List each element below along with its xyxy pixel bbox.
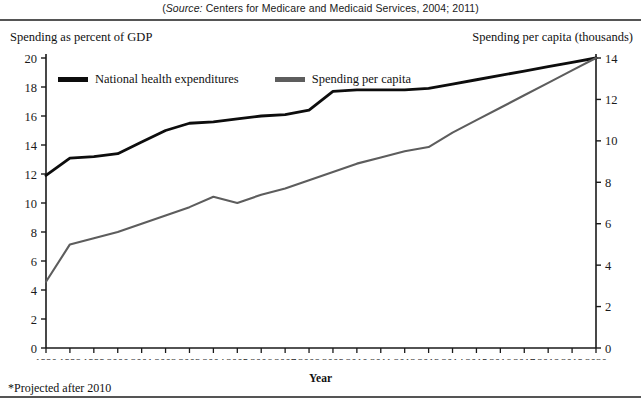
right-axis-title: Spending per capita (thousands) [472, 30, 633, 45]
x-axis-tick-label: 2010 [346, 356, 369, 360]
y-axis-left-tick-label: 14 [25, 139, 38, 153]
y-axis-right-tick-label: 0 [605, 342, 611, 356]
x-axis-tick-label: 2020 [585, 356, 608, 360]
y-axis-left-tick-label: 2 [31, 313, 37, 327]
figure-root: (Source: Centers for Medicare and Medica… [0, 0, 641, 409]
x-axis-tick-label: 2006 [250, 356, 273, 360]
line-chart: 0246810121416182002468101214199019981999… [0, 48, 641, 360]
x-axis-tick-label: 2009 [322, 356, 345, 360]
x-axis-tick-label: 2007 [274, 356, 297, 360]
x-axis-tick-label: 2011 [370, 356, 392, 360]
x-axis-tick-label: 2012 [394, 356, 416, 360]
source-note: (Source: Centers for Medicare and Medica… [0, 2, 641, 14]
x-axis-tick-label: 2008 [298, 356, 321, 360]
x-axis-tick-label: 2001 [131, 356, 153, 360]
y-axis-left-tick-label: 0 [31, 342, 37, 356]
y-axis-right-tick-label: 10 [605, 134, 618, 148]
source-label: Source: [166, 2, 203, 14]
top-divider [0, 19, 641, 21]
left-axis-title: Spending as percent of GDP [10, 30, 152, 45]
series-line-1 [46, 58, 596, 175]
y-axis-right-tick-label: 8 [605, 176, 611, 190]
x-axis-tick-label: 1990 [35, 356, 58, 360]
y-axis-left-tick-label: 8 [31, 226, 37, 240]
x-axis-tick-label: 2014 [442, 356, 465, 360]
bottom-divider [0, 396, 641, 398]
y-axis-right-tick-label: 4 [605, 259, 612, 273]
x-axis-tick-label: 2000 [107, 356, 130, 360]
x-axis-tick-label: 2015 [465, 356, 488, 360]
x-axis-tick-label: 2005 [226, 356, 249, 360]
y-axis-left-tick-label: 16 [25, 110, 38, 124]
x-axis-tick-label: 2016 [489, 356, 512, 360]
y-axis-right-tick-label: 14 [605, 52, 618, 66]
x-axis-tick-label: 1998 [59, 356, 82, 360]
series-line-2 [46, 58, 596, 282]
y-axis-left-tick-label: 4 [31, 284, 38, 298]
x-axis-tick-label: 2003 [178, 356, 201, 360]
y-axis-right-tick-label: 12 [605, 93, 618, 107]
x-axis-tick-label: 2019 [561, 356, 584, 360]
y-axis-left-tick-label: 20 [25, 52, 38, 66]
x-axis-tick-label: 2018 [537, 356, 560, 360]
source-text: Centers for Medicare and Medicaid Servic… [203, 2, 479, 14]
x-axis-tick-label: 2004 [202, 356, 225, 360]
x-axis-tick-label: 2002 [155, 356, 177, 360]
y-axis-left-tick-label: 10 [25, 197, 38, 211]
y-axis-right-tick-label: 6 [605, 217, 611, 231]
y-axis-left-tick-label: 18 [25, 81, 38, 95]
x-axis-tick-label: 1999 [83, 356, 106, 360]
footnote: *Projected after 2010 [8, 381, 111, 396]
x-axis-tick-label: 2017 [513, 356, 536, 360]
y-axis-right-tick-label: 2 [605, 300, 611, 314]
y-axis-left-tick-label: 6 [31, 255, 37, 269]
plot-area: 0246810121416182002468101214199019981999… [0, 48, 641, 360]
x-axis-tick-label: 2013 [418, 356, 441, 360]
y-axis-left-tick-label: 12 [25, 168, 38, 182]
